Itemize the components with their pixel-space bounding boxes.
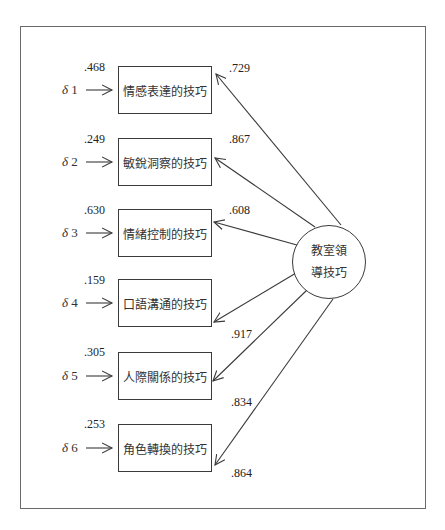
- factor-loading-4: .917: [231, 327, 252, 342]
- loading-arrow-3: [214, 222, 297, 245]
- error-variance-6: .253: [84, 417, 105, 432]
- loading-arrow-5: [213, 290, 307, 381]
- error-term-3: δ 3: [62, 225, 78, 241]
- error-variance-3: .630: [84, 203, 105, 218]
- indicator-box-6: 角色轉換的技巧: [118, 424, 212, 472]
- latent-label-line2: 導技巧: [311, 262, 347, 284]
- error-term-1: δ 1: [62, 82, 78, 98]
- indicator-box-3: 情緒控制的技巧: [118, 209, 212, 257]
- error-index: 2: [71, 154, 78, 169]
- indicator-box-2: 敏銳洞察的技巧: [118, 138, 212, 186]
- error-index: 1: [71, 82, 78, 97]
- error-index: 6: [71, 440, 78, 455]
- error-index: 5: [71, 368, 78, 383]
- error-term-6: δ 6: [62, 440, 78, 456]
- latent-factor-circle: 教室領 導技巧: [292, 225, 366, 299]
- factor-loading-6: .864: [231, 466, 252, 481]
- error-variance-1: .468: [84, 60, 105, 75]
- indicator-box-4: 口語溝通的技巧: [118, 279, 212, 327]
- indicator-box-1: 情感表達的技巧: [118, 66, 212, 114]
- error-variance-2: .249: [84, 132, 105, 147]
- indicator-box-5: 人際關係的技巧: [118, 352, 212, 400]
- error-term-2: δ 2: [62, 154, 78, 170]
- error-term-5: δ 5: [62, 368, 78, 384]
- error-variance-5: .305: [84, 345, 105, 360]
- error-variance-4: .159: [84, 273, 105, 288]
- error-index: 3: [71, 225, 78, 240]
- loading-arrow-4: [214, 273, 296, 322]
- factor-loading-2: .867: [229, 132, 250, 147]
- error-term-4: δ 4: [62, 295, 78, 311]
- factor-loading-3: .608: [229, 203, 250, 218]
- factor-loading-5: .834: [231, 395, 252, 410]
- error-index: 4: [71, 295, 78, 310]
- loading-arrow-6: [215, 299, 333, 465]
- factor-loading-1: .729: [229, 61, 250, 76]
- latent-label-line1: 教室領: [311, 240, 347, 262]
